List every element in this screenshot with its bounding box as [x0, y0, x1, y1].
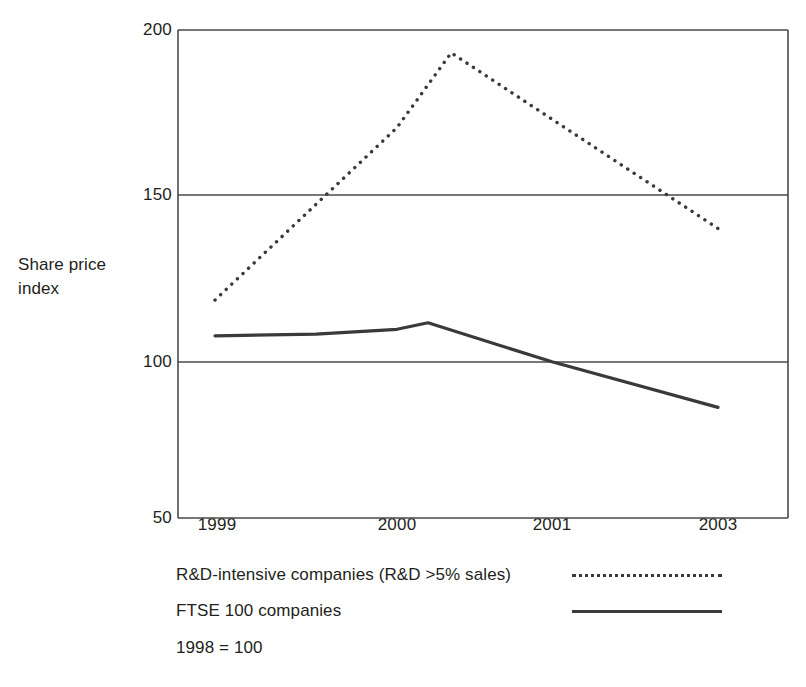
gridlines: [178, 195, 788, 362]
legend-swatch-dotted-icon: [572, 574, 722, 581]
share-price-index-chart: Share price index 200 150 100 50 1999 20…: [0, 0, 806, 687]
series-rd-intensive-line: [215, 53, 718, 300]
legend-label-ftse100: FTSE 100 companies: [176, 601, 341, 621]
legend-swatch-solid-icon: [572, 610, 722, 617]
legend-row-ftse100: FTSE 100 companies: [176, 596, 796, 632]
legend-base-year-note: 1998 = 100: [176, 638, 263, 658]
legend-row-rd-intensive: R&D-intensive companies (R&D >5% sales): [176, 560, 796, 596]
series-ftse100-line: [215, 323, 718, 408]
axis-frame: [178, 30, 788, 518]
legend-label-rd-intensive: R&D-intensive companies (R&D >5% sales): [176, 565, 511, 585]
chart-legend: R&D-intensive companies (R&D >5% sales) …: [176, 560, 796, 632]
